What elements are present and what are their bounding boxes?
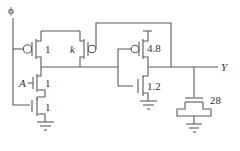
inversion-bubble-icon [88,45,96,53]
inversion-bubble-icon [23,45,31,53]
input-nmos [28,67,45,97]
foot-nmos-size: 1 [45,101,51,113]
input-nmos-size: 1 [45,77,51,89]
inverter-nmos-size: 1.2 [147,80,161,92]
ground-icon [37,122,54,130]
clock-label: ϕ [8,4,14,16]
inversion-bubble-icon [131,45,139,53]
inverter-pmos-size: 4.8 [147,42,161,54]
foot-nmos [32,97,45,122]
clock-wire [13,18,30,105]
precharge-pmos [23,31,41,67]
circuit-schematic: ϕ 1 k A 1 1 [0,0,240,151]
input-a-label: A [18,77,26,89]
output-y-label: Y [221,61,229,73]
load-capacitor [177,67,211,124]
ground-icon [186,124,202,132]
load-capacitor-size: 28 [210,94,222,106]
inverter-input-wire [118,67,133,86]
ground-icon [140,101,157,109]
keeper-size: k [70,43,76,55]
precharge-pmos-size: 1 [45,43,51,55]
inverter-input-wire [118,49,131,67]
